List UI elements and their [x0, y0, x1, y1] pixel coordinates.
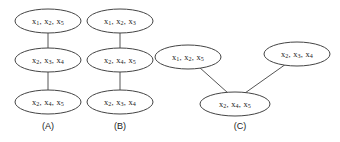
panel-c: x1, x2, x5x2, x3, x4x2, x4, x5(C) [155, 42, 330, 131]
panel-caption-a: (A) [42, 121, 54, 131]
panel-a: x1, x2, x5x2, x3, x4x2, x4, x5(A) [15, 9, 81, 131]
edge-c1-to-c3 [199, 67, 228, 93]
graph-canvas: x1, x2, x5x2, x3, x4x2, x4, x5(A)x1, x2,… [0, 0, 340, 142]
panel-caption-b: (B) [114, 121, 126, 131]
node-a1[interactable]: x1, x2, x5 [15, 9, 81, 33]
node-b1[interactable]: x1, x2, x3 [87, 9, 153, 33]
node-c2[interactable]: x2, x3, x4 [264, 42, 330, 66]
edge-c2-to-c3 [245, 64, 286, 93]
figure-root: x1, x2, x5x2, x3, x4x2, x4, x5(A)x1, x2,… [0, 0, 340, 142]
node-a2[interactable]: x2, x3, x4 [15, 48, 81, 72]
node-b2[interactable]: x2, x4, x5 [87, 48, 153, 72]
node-b3[interactable]: x2, x3, x4 [87, 90, 153, 114]
panel-b: x1, x2, x3x2, x4, x5x2, x3, x4(B) [87, 9, 153, 131]
panel-caption-c: (C) [234, 121, 247, 131]
node-c3[interactable]: x2, x4, x5 [200, 92, 270, 116]
node-c1[interactable]: x1, x2, x5 [155, 45, 221, 69]
panels-group: x1, x2, x5x2, x3, x4x2, x4, x5(A)x1, x2,… [15, 9, 330, 131]
node-a3[interactable]: x2, x4, x5 [15, 90, 81, 114]
